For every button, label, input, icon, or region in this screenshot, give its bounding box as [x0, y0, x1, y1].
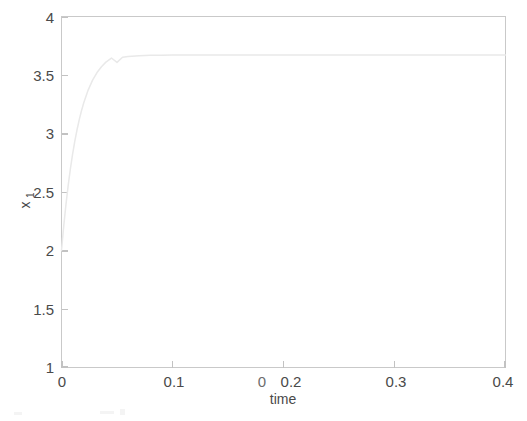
y-tick-label: 4 [46, 9, 54, 26]
y-tick-label: 1.5 [33, 301, 54, 318]
chart-svg: 4 3.5 3 2.5 2 1.5 1 0 0.1 0 0.2 0.3 0.4 … [0, 0, 527, 421]
y-tick-label: 3 [46, 125, 54, 142]
scan-noise [14, 409, 125, 415]
y-tick-labels: 4 3.5 3 2.5 2 1.5 1 [33, 9, 54, 376]
plot-area-background [61, 16, 505, 367]
x-tick-label: 0.4 [493, 373, 514, 390]
x-tick-label: 0.2 [281, 373, 302, 390]
figure-container: 4 3.5 3 2.5 2 1.5 1 0 0.1 0 0.2 0.3 0.4 … [0, 0, 527, 421]
y-axis-label-subscript: 1 [25, 192, 36, 198]
x-tick-label: 0.1 [164, 373, 185, 390]
x-axis-label: time [270, 391, 297, 407]
y-tick-label: 1 [46, 359, 54, 376]
x-tick-label: 0.3 [386, 373, 407, 390]
x-tick-labels: 0 0.1 0 0.2 0.3 0.4 [58, 373, 514, 390]
y-tick-label: 2 [46, 242, 54, 259]
x-tick-label: 0 [58, 373, 66, 390]
y-tick-label: 3.5 [33, 67, 54, 84]
y-axis-label-main: x [17, 202, 33, 209]
y-tick-label: 2.5 [33, 184, 54, 201]
scan-artifact-zero: 0 [258, 373, 266, 390]
